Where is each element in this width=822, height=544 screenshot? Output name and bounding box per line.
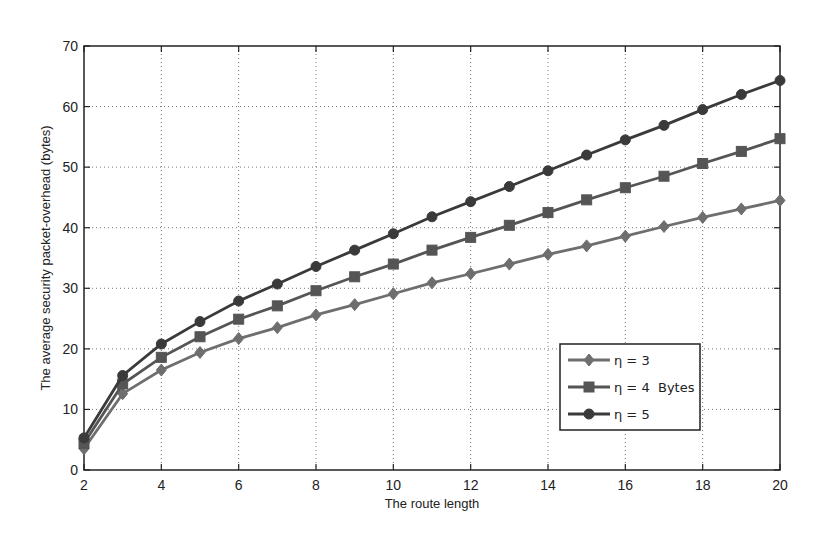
legend-label: η = 4 xyxy=(614,380,650,395)
y-tick-label: 0 xyxy=(70,462,78,478)
x-axis-label: The route length xyxy=(385,496,480,511)
legend-note: Bytes xyxy=(658,380,695,395)
x-tick-label: 18 xyxy=(695,477,711,493)
y-tick-label: 40 xyxy=(62,220,78,236)
y-tick-label: 20 xyxy=(62,341,78,357)
legend: η = 3η = 4η = 5 Bytes xyxy=(560,344,700,430)
x-tick-label: 14 xyxy=(540,477,556,493)
y-tick-label: 60 xyxy=(62,99,78,115)
line-chart: 2468101214161820010203040506070 The rout… xyxy=(0,0,822,544)
y-tick-label: 70 xyxy=(62,38,78,54)
x-tick-label: 12 xyxy=(463,477,479,493)
x-tick-label: 16 xyxy=(618,477,634,493)
x-tick-label: 6 xyxy=(235,477,243,493)
x-tick-label: 4 xyxy=(157,477,165,493)
x-tick-label: 8 xyxy=(312,477,320,493)
legend-label: η = 5 xyxy=(614,407,650,422)
y-axis-label: The average security packet-overhead (by… xyxy=(38,125,53,390)
x-tick-label: 10 xyxy=(386,477,402,493)
y-tick-label: 50 xyxy=(62,159,78,175)
x-tick-label: 2 xyxy=(80,477,88,493)
y-tick-label: 30 xyxy=(62,280,78,296)
y-tick-label: 10 xyxy=(62,401,78,417)
x-tick-label: 20 xyxy=(772,477,788,493)
legend-label: η = 3 xyxy=(614,353,650,368)
